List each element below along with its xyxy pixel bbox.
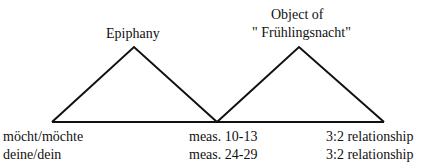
bottom-middle-2: meas. 24-29	[189, 147, 257, 163]
bottom-right-2: 3:2 relationship	[326, 147, 414, 163]
object-label-line2: " Frühlingsnacht"	[252, 25, 351, 41]
right-triangle	[217, 47, 384, 122]
bottom-right-1: 3:2 relationship	[326, 129, 414, 145]
bottom-left-1: möcht/möchte	[3, 129, 83, 145]
left-triangle	[52, 47, 217, 122]
bottom-middle-1: meas. 10-13	[189, 129, 257, 145]
epiphany-label: Epiphany	[106, 26, 160, 42]
bottom-left-2: deine/dein	[3, 147, 61, 163]
object-label-line1: Object of	[271, 7, 323, 23]
